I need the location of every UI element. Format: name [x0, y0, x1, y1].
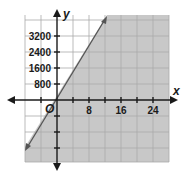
- y-tick-label: 1600: [29, 63, 52, 74]
- y-axis-up-arrow-icon: [53, 9, 61, 17]
- y-axis-down-arrow-icon: [53, 163, 61, 171]
- y-axis-label: y: [62, 7, 71, 21]
- x-tick-label: 16: [115, 105, 127, 116]
- y-tick-label: 800: [34, 79, 51, 90]
- y-tick-label: 3200: [29, 31, 52, 42]
- x-tick-label: 24: [147, 105, 159, 116]
- x-axis-label: x: [172, 84, 181, 98]
- x-tick-label: 8: [86, 105, 92, 116]
- y-tick-label: 2400: [29, 47, 52, 58]
- inequality-graph: 3200 2400 1600 800 8 16 24 O y x: [0, 0, 186, 177]
- origin-label: O: [45, 102, 55, 116]
- x-axis-left-arrow-icon: [7, 96, 15, 104]
